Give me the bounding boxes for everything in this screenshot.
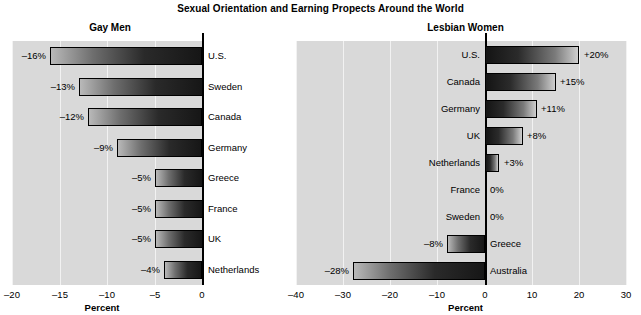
bar-category-label: Netherlands (429, 154, 480, 172)
bar (164, 261, 202, 279)
bar-value-label: 0% (490, 181, 504, 199)
bar (155, 200, 203, 218)
bar-category-label: Australia (490, 262, 527, 280)
bar-category-label: Canada (447, 73, 480, 91)
x-tick-label: 20 (561, 289, 597, 300)
bar-value-label: +3% (504, 154, 523, 172)
bar-category-label: Germany (441, 100, 480, 118)
plot-area-left (12, 41, 202, 285)
bar-value-label: –16% (22, 47, 46, 65)
bar-value-label: +11% (541, 100, 565, 118)
bar-value-label: +20% (584, 46, 609, 64)
bar-value-label: –5% (132, 200, 151, 218)
panel-gay-men: Gay Men Percent –16%U.S.–13%Sweden–12%Ca… (0, 20, 280, 315)
bar-value-label: 0% (490, 208, 504, 226)
bar (353, 262, 485, 280)
bar (485, 127, 523, 145)
x-tick-label: –40 (278, 289, 314, 300)
panel-lesbian-women: Lesbian Women Percent +20%U.S.+15%Canada… (290, 20, 641, 315)
bar (447, 235, 485, 253)
gridline (296, 41, 297, 285)
bar-category-label: France (450, 181, 480, 199)
panel-right-subtitle: Lesbian Women (280, 22, 641, 33)
gridline (12, 41, 13, 285)
bar-value-label: –28% (325, 262, 349, 280)
x-axis-title-right: Percent (280, 302, 641, 313)
x-tick-label: 0 (467, 289, 503, 300)
bar (155, 169, 203, 187)
bar (485, 46, 579, 64)
bar (155, 230, 203, 248)
x-tick-label: –10 (89, 289, 125, 300)
bar (485, 154, 499, 172)
x-tick-label: –20 (0, 289, 30, 300)
bar-value-label: –13% (51, 78, 75, 96)
chart-title: Sexual Orientation and Earning Propects … (0, 3, 641, 14)
bar-category-label: Germany (208, 139, 247, 157)
bar-category-label: U.S. (208, 47, 226, 65)
bar-value-label: –8% (424, 235, 443, 253)
gridline (626, 41, 627, 285)
bar-category-label: UK (208, 230, 221, 248)
bar-category-label: Canada (208, 108, 241, 126)
gridline (390, 41, 391, 285)
bar (485, 100, 537, 118)
bar-category-label: U.S. (462, 46, 480, 64)
x-tick-label: –20 (372, 289, 408, 300)
bar-value-label: –5% (132, 230, 151, 248)
bar-value-label: –9% (94, 139, 113, 157)
chart-figure: Sexual Orientation and Earning Propects … (0, 0, 641, 315)
x-tick-label: –15 (42, 289, 78, 300)
bar-category-label: France (208, 200, 238, 218)
bar (79, 78, 203, 96)
bar-category-label: UK (467, 127, 480, 145)
bar-value-label: –4% (141, 261, 160, 279)
x-tick-label: 10 (514, 289, 550, 300)
x-axis-title-left: Percent (0, 302, 282, 313)
bar-category-label: Sweden (446, 208, 480, 226)
x-tick-label: 30 (608, 289, 641, 300)
bar-category-label: Sweden (208, 78, 242, 96)
panel-left-subtitle: Gay Men (0, 22, 280, 33)
bar-value-label: –5% (132, 169, 151, 187)
bar (485, 73, 556, 91)
bar-value-label: –12% (60, 108, 84, 126)
bar (117, 139, 202, 157)
x-tick-label: –5 (137, 289, 173, 300)
bar (88, 108, 202, 126)
x-tick-label: –10 (419, 289, 455, 300)
bar-category-label: Greece (208, 169, 239, 187)
gridline (343, 41, 344, 285)
bar-category-label: Greece (490, 235, 521, 253)
x-tick-label: 0 (184, 289, 220, 300)
x-tick-label: –30 (325, 289, 361, 300)
bar-value-label: +8% (527, 127, 546, 145)
bar (50, 47, 202, 65)
bar-value-label: +15% (560, 73, 585, 91)
bar-category-label: Netherlands (208, 261, 259, 279)
